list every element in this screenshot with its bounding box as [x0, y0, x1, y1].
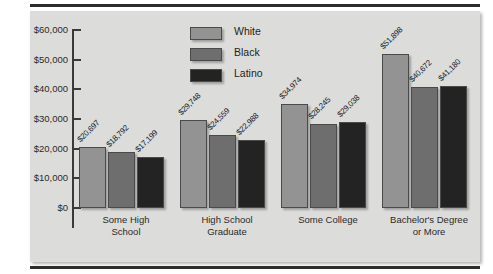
- bar-value-label: $24,559: [206, 106, 232, 132]
- bar-value-label: $29,038: [336, 93, 362, 119]
- plot-area: $20,697$18,792$17,199$29,748$24,559$22,9…: [74, 30, 478, 208]
- bar-value-label: $22,988: [235, 111, 261, 137]
- bar-white: [180, 120, 207, 208]
- bar-value-label: $34,974: [278, 75, 304, 101]
- bar-white: [281, 104, 308, 208]
- x-axis-category-label: Some College: [271, 214, 385, 226]
- bar-group: $51,898$40,672$41,180: [382, 30, 476, 208]
- bottom-rule: [30, 266, 480, 269]
- bar-value-label: $28,245: [307, 95, 333, 121]
- y-axis-tick-label: $20,000: [4, 143, 68, 154]
- bar-group: $34,974$28,245$29,038: [281, 30, 375, 208]
- chart-panel-inner: $60,000$50,000$40,000$30,000$20,000$10,0…: [30, 11, 480, 262]
- x-axis-category-label: Bachelor's Degree or More: [372, 214, 486, 237]
- bar-value-label: $41,180: [437, 57, 463, 83]
- y-axis-tick-label: $50,000: [4, 54, 68, 65]
- chart-panel: $60,000$50,000$40,000$30,000$20,000$10,0…: [30, 11, 480, 262]
- bar-value-label: $40,672: [408, 59, 434, 85]
- x-axis-category-label: Some High School: [69, 214, 183, 237]
- bar-latino: [137, 157, 164, 208]
- top-rule: [30, 4, 480, 7]
- bar-value-label: $18,792: [105, 123, 131, 149]
- bar-white: [382, 54, 409, 208]
- bar-black: [310, 124, 337, 208]
- bar-value-label: $51,898: [379, 25, 405, 51]
- y-axis-tick-label: $30,000: [4, 113, 68, 124]
- bar-latino: [339, 122, 366, 208]
- bar-black: [108, 152, 135, 208]
- bar-value-label: $29,748: [177, 91, 203, 117]
- bar-value-label: $17,199: [134, 128, 160, 154]
- y-axis-tick-label: $60,000: [4, 24, 68, 35]
- x-axis-category-label: High School Graduate: [170, 214, 284, 237]
- bar-value-label: $20,697: [76, 118, 102, 144]
- bar-black: [209, 135, 236, 208]
- y-axis-tick-label: $0: [4, 202, 68, 213]
- bar-group: $20,697$18,792$17,199: [79, 30, 173, 208]
- bar-latino: [238, 140, 265, 208]
- y-axis-tick-label: $10,000: [4, 172, 68, 183]
- bar-group: $29,748$24,559$22,988: [180, 30, 274, 208]
- chart-figure: $60,000$50,000$40,000$30,000$20,000$10,0…: [0, 0, 493, 274]
- bar-latino: [440, 86, 467, 208]
- bar-black: [411, 87, 438, 208]
- y-axis-tick-label: $40,000: [4, 83, 68, 94]
- bar-white: [79, 147, 106, 208]
